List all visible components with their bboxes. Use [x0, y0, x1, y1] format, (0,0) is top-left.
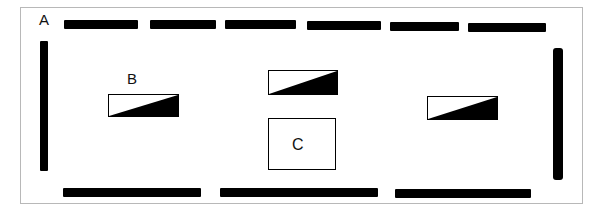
- left-side-bar: [40, 41, 48, 171]
- bottom-bar-1: [63, 188, 201, 197]
- wedge-icon: [428, 97, 497, 119]
- bottom-bar-3: [395, 189, 531, 198]
- top-bar-4: [307, 21, 381, 30]
- wedge-box-center: [268, 70, 338, 95]
- wedge-icon: [269, 71, 337, 94]
- top-bar-2: [150, 20, 216, 29]
- wedge-icon: [109, 95, 178, 116]
- top-bar-3: [225, 20, 296, 29]
- right-side-bar: [553, 48, 563, 180]
- label-b: B: [127, 71, 137, 86]
- bottom-bar-2: [220, 188, 378, 197]
- top-bar-5: [390, 22, 459, 31]
- top-bar-1: [64, 20, 138, 29]
- label-c: C: [292, 137, 304, 153]
- top-bar-6: [468, 23, 546, 32]
- diagram-frame: [20, 7, 583, 204]
- wedge-box-b: [108, 94, 179, 117]
- label-a: A: [39, 12, 49, 27]
- wedge-box-right: [427, 96, 498, 120]
